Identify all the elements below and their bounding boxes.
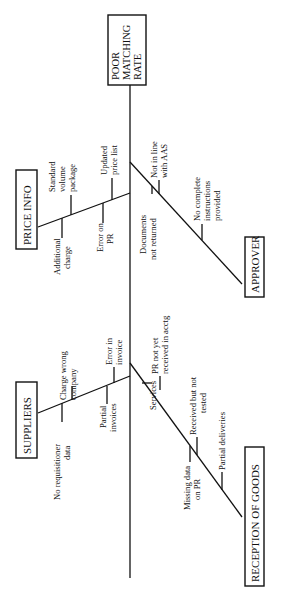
svg-text:Error on: Error on <box>95 222 105 252</box>
svg-text:Standard: Standard <box>47 161 57 192</box>
svg-text:package: package <box>67 164 77 192</box>
cause-received-but-not-tested: Received but not tested <box>188 376 208 435</box>
svg-text:on PR: on PR <box>192 478 202 500</box>
cause-no-requisitioner-data: No requisitioner data <box>52 444 72 500</box>
cause-services: Services <box>148 380 158 410</box>
svg-text:Partial deliveries: Partial deliveries <box>217 411 227 470</box>
price-info-label: PRICE INFO <box>21 185 33 245</box>
suppliers-label: SUPPLIERS <box>21 397 33 454</box>
svg-text:Partial: Partial <box>98 405 108 428</box>
svg-text:Error in: Error in <box>104 337 114 365</box>
effect-line-2: MATCHING <box>121 24 132 80</box>
cause-partial-invoices: Partial invoices <box>98 403 118 432</box>
svg-text:volume: volume <box>57 166 67 192</box>
effect-line-3: RATE <box>132 54 143 80</box>
svg-text:No requisitioner: No requisitioner <box>52 444 62 500</box>
category-reception-of-goods: RECEPTION OF GOODS Services PR not yet r… <box>130 315 264 586</box>
cause-updated-price-list: Updated price list <box>99 145 119 175</box>
svg-text:provided: provided <box>212 190 222 221</box>
svg-text:invoices: invoices <box>108 403 118 432</box>
svg-text:Services: Services <box>148 380 158 410</box>
cause-error-on-pr: Error on PR <box>95 222 115 252</box>
cause-pr-not-yet-received: PR not yet received in acctg <box>150 315 170 374</box>
category-suppliers: SUPPLIERS No requisitioner data Charge w… <box>16 337 130 500</box>
svg-text:with AAS: with AAS <box>159 144 169 178</box>
svg-text:tested: tested <box>198 392 208 413</box>
effect-line-1: POOR <box>110 52 121 80</box>
svg-text:No complete: No complete <box>192 177 202 221</box>
approver-label: APPROVER <box>249 235 261 293</box>
cause-additional-charge: Additional charge <box>52 238 72 275</box>
price-info-branch <box>38 193 130 227</box>
reception-of-goods-label: RECEPTION OF GOODS <box>249 464 261 582</box>
cause-standard-volume-package: Standard volume package <box>47 161 77 192</box>
svg-text:Received but not: Received but not <box>188 376 198 435</box>
svg-text:not returned: not returned <box>148 218 158 260</box>
svg-text:PR not yet: PR not yet <box>150 337 160 374</box>
cause-documents-not-returned: Documents not returned <box>138 214 158 260</box>
svg-text:Missing data: Missing data <box>182 466 192 510</box>
svg-text:Charge wrong: Charge wrong <box>58 351 68 400</box>
category-price-info: PRICE INFO Additional charge Standard vo… <box>16 145 130 275</box>
fishbone-diagram: POOR MATCHING RATE PRICE INFO Additional… <box>0 0 290 614</box>
cause-error-in-invoice: Error in invoice <box>104 337 124 365</box>
svg-text:Additional: Additional <box>52 238 62 275</box>
cause-no-complete-instructions: No complete instructions provided <box>192 177 222 221</box>
svg-text:charge: charge <box>62 246 72 269</box>
svg-text:data: data <box>62 446 72 460</box>
cause-partial-deliveries: Partial deliveries <box>217 411 227 470</box>
svg-text:received in acctg: received in acctg <box>160 315 170 374</box>
svg-text:company: company <box>68 368 78 400</box>
svg-text:price list: price list <box>109 145 119 175</box>
svg-text:instructions: instructions <box>202 180 212 221</box>
svg-text:Documents: Documents <box>138 214 148 254</box>
effect-box: POOR MATCHING RATE <box>108 15 146 85</box>
svg-text:Updated: Updated <box>99 145 109 175</box>
category-approver: APPROVER Documents not returned Not in l… <box>130 141 264 297</box>
cause-missing-data-on-pr: Missing data on PR <box>182 466 202 510</box>
cause-not-in-line-with-aas: Not in line with AAS <box>149 141 169 178</box>
cause-charge-wrong-company: Charge wrong company <box>58 351 78 400</box>
svg-text:Not in line: Not in line <box>149 141 159 178</box>
svg-text:PR: PR <box>105 233 115 244</box>
svg-text:invoice: invoice <box>114 340 124 365</box>
